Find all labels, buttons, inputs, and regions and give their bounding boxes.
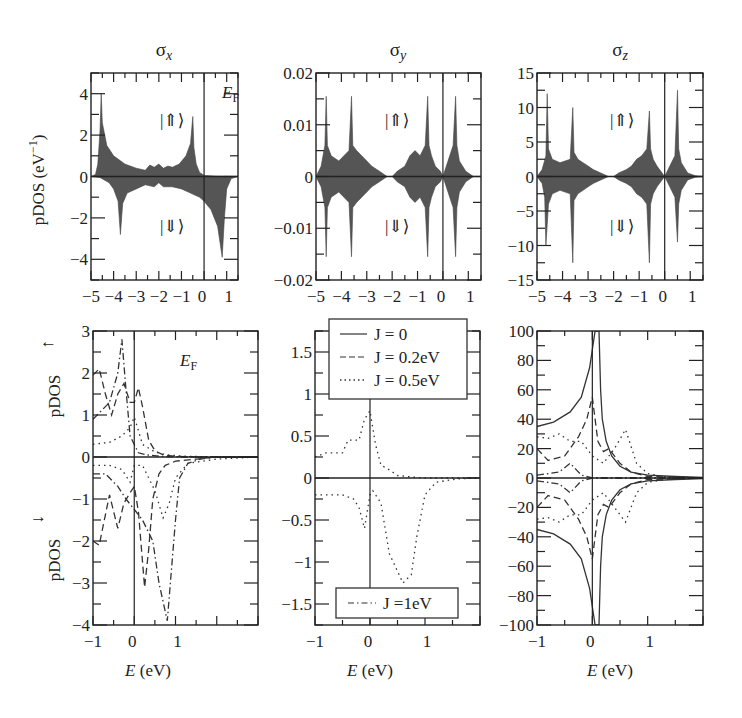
dos-curve	[93, 457, 258, 587]
x-tick-label: −2	[605, 287, 623, 306]
dos-curve	[537, 479, 703, 625]
y-tick-label: 80	[517, 351, 534, 370]
y-tick-label: 2	[82, 364, 91, 383]
x-tick-label: −2	[383, 287, 401, 306]
ylabel-pdos-top: pDOS (eV−1)	[26, 135, 48, 226]
fermi-label-top: EF	[221, 83, 239, 105]
x-tick-label: −5	[82, 287, 100, 306]
axes-frame	[93, 331, 258, 625]
y-tick-label: −40	[507, 528, 534, 547]
dos-curve	[537, 430, 703, 479]
dos-curve	[537, 331, 703, 477]
dos-curve	[93, 457, 258, 621]
y-tick-label: 0	[526, 168, 535, 187]
x-tick-label: −1	[172, 287, 190, 306]
y-tick-label: 10	[517, 99, 534, 118]
arrow-down-label: →	[30, 507, 47, 526]
x-tick-label: −3	[358, 287, 376, 306]
y-tick-label: −2	[70, 209, 88, 228]
y-tick-label: 0.5	[291, 427, 312, 446]
y-tick-label: 2	[80, 126, 89, 145]
panel-top-sigma-x: −5−4−3−2−101420−2−4	[70, 73, 238, 306]
y-tick-label: −4	[70, 250, 89, 269]
y-tick-label: 40	[517, 410, 534, 429]
dos-curve	[93, 339, 258, 457]
panel-top-sigma-z: −5−4−3−2−101151050−5−10−15	[507, 64, 703, 306]
x-tick-label: 1	[466, 287, 475, 306]
y-tick-label: −5	[516, 202, 534, 221]
y-tick-label: −15	[507, 271, 534, 290]
panel-bottom-sigma-z: −101100806040200−20−40−60−80−100	[499, 322, 703, 651]
ylabel-pdos-up: pDOS	[45, 375, 64, 418]
dos-curve	[93, 369, 258, 457]
y-tick-label: 0.02	[283, 64, 313, 83]
legend-j1: J =1eV	[383, 594, 432, 613]
y-tick-label: 0	[82, 448, 91, 467]
dos-curve	[315, 478, 480, 583]
x-tick-label: 0	[586, 632, 595, 651]
x-tick-label: 0	[658, 287, 667, 306]
y-tick-label: 1	[82, 406, 91, 425]
y-tick-label: −80	[507, 587, 534, 606]
legend-bottom: J =1eV	[336, 588, 458, 618]
y-tick-label: 100	[509, 322, 535, 341]
panel-bottom-sigma-x: −1013210−1−2−3−4	[72, 322, 258, 651]
pdos-figure: −5−4−3−2−101420−2−4−5−4−3−2−1010.020.010…	[0, 0, 742, 718]
title-sigma-x: σx	[156, 39, 173, 63]
xlabel-energy-2: E (eV)	[346, 661, 393, 680]
dos-curve	[93, 417, 258, 457]
ket-up-z: |⇑⟩	[610, 111, 634, 130]
y-tick-label: 5	[526, 133, 535, 152]
x-tick-label: −2	[150, 287, 168, 306]
xlabel-energy-1: E (eV)	[124, 661, 171, 680]
ket-up-y: |⇑⟩	[385, 111, 409, 130]
y-tick-label: −100	[499, 616, 534, 635]
x-tick-label: 0	[364, 632, 373, 651]
y-tick-label: 20	[517, 440, 534, 459]
xlabel-energy-3: E (eV)	[586, 661, 633, 680]
ket-down-x: |⇓⟩	[160, 217, 184, 236]
x-tick-label: 1	[688, 287, 697, 306]
y-tick-label: −0.02	[274, 271, 313, 290]
legend-j0: J = 0	[374, 325, 407, 344]
y-tick-label: −1.5	[281, 595, 312, 614]
ylabel-pdos-down: pDOS	[45, 539, 64, 582]
y-tick-label: 1.5	[291, 343, 312, 362]
y-tick-label: 0	[80, 168, 89, 187]
y-tick-label: 60	[517, 381, 534, 400]
x-tick-label: −1	[408, 287, 426, 306]
ket-up-x: |⇑⟩	[160, 111, 184, 130]
y-tick-label: −2	[72, 532, 90, 551]
y-tick-label: −3	[72, 574, 90, 593]
y-tick-label: −0.01	[274, 219, 313, 238]
y-tick-label: −0.5	[281, 511, 312, 530]
y-tick-label: −60	[507, 557, 534, 576]
dos-area	[537, 90, 703, 176]
y-tick-label: 0	[305, 168, 314, 187]
x-tick-label: −3	[579, 287, 597, 306]
x-tick-label: 1	[423, 632, 432, 651]
ket-down-y: |⇓⟩	[385, 217, 409, 236]
ket-down-z: |⇓⟩	[610, 217, 634, 236]
x-tick-label: 0	[128, 632, 137, 651]
dos-area	[91, 94, 238, 177]
x-tick-label: 1	[645, 632, 654, 651]
panel-top-sigma-y: −5−4−3−2−1010.020.010−0.01−0.02	[274, 64, 481, 306]
y-tick-label: −10	[507, 237, 534, 256]
x-tick-label: 0	[198, 287, 207, 306]
x-tick-label: −3	[127, 287, 145, 306]
x-tick-label: −4	[332, 287, 351, 306]
y-tick-label: 0	[526, 469, 535, 488]
legend-j02: J = 0.2eV	[374, 348, 440, 367]
x-tick-label: 1	[173, 632, 182, 651]
x-tick-label: −4	[105, 287, 124, 306]
y-tick-label: −1	[294, 553, 312, 572]
y-tick-label: −20	[507, 498, 534, 517]
y-tick-label: 15	[517, 64, 534, 83]
y-tick-label: 0	[304, 469, 313, 488]
y-tick-label: 1	[304, 385, 313, 404]
title-sigma-y: σy	[390, 39, 407, 63]
legend-top: J = 0 J = 0.2eV J = 0.5eV	[329, 319, 467, 399]
dos-area	[316, 96, 481, 176]
dos-curve	[537, 478, 703, 522]
